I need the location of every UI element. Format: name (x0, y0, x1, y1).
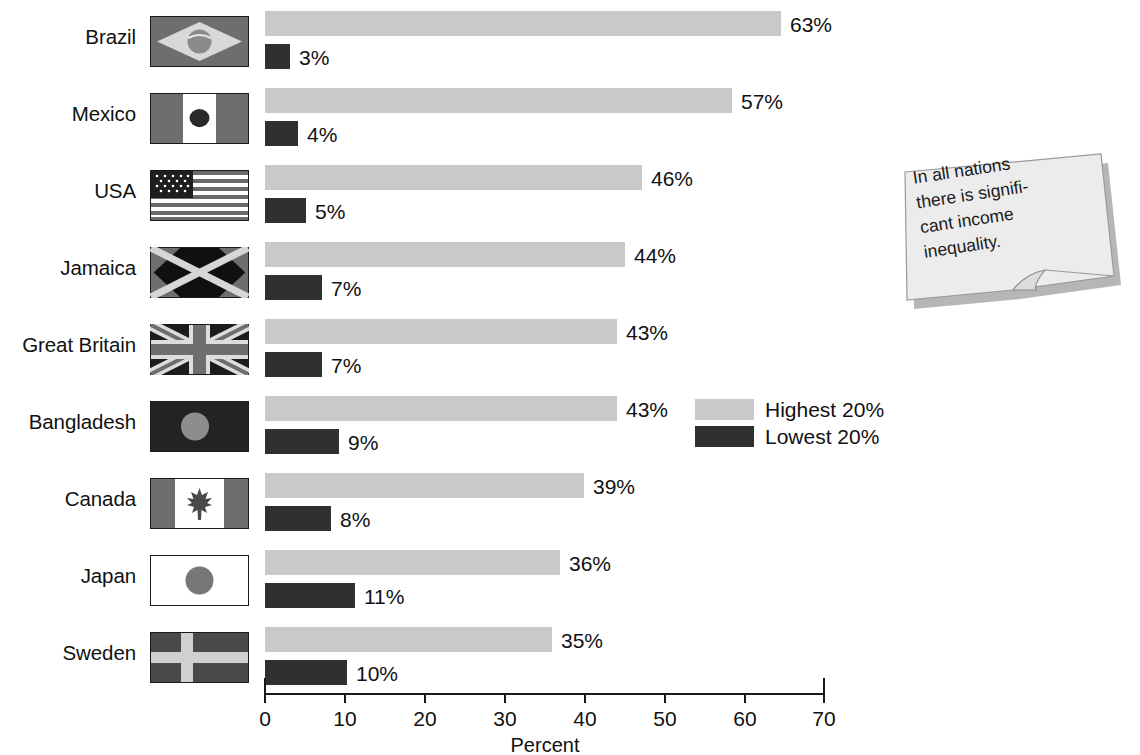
x-axis-tick (584, 693, 586, 703)
bar-value-lowest: 9% (348, 431, 378, 452)
x-axis-tick-label: 50 (635, 706, 695, 731)
chart-row: Japan 36% 11% (0, 543, 1140, 620)
x-axis-tick-label: 10 (315, 706, 375, 731)
flag-jamaica-icon (150, 247, 249, 298)
x-axis-title: Percent (265, 734, 825, 755)
flag-brazil-icon (150, 16, 249, 67)
chart-row: Brazil 63% 3% (0, 4, 1140, 81)
flag-japan-icon (150, 555, 249, 606)
flag-canada-icon (150, 478, 249, 529)
x-axis-line (265, 693, 825, 695)
x-axis-tick (664, 693, 666, 703)
bar-value-lowest: 5% (315, 200, 345, 221)
country-label: Japan (0, 563, 136, 589)
bar-highest: 36% (265, 550, 560, 575)
x-axis-tick (424, 693, 426, 703)
bar-value-lowest: 4% (307, 123, 337, 144)
bar-highest: 57% (265, 88, 732, 113)
x-axis-tick (264, 693, 266, 703)
legend-swatch-highest (695, 399, 754, 420)
bar-value-lowest: 7% (331, 354, 361, 375)
bar-value-highest: 39% (593, 475, 635, 496)
bar-highest: 46% (265, 165, 642, 190)
legend-label-highest: Highest 20% (765, 396, 884, 423)
bar-value-highest: 35% (561, 629, 603, 650)
x-axis-tick-label: 40 (555, 706, 615, 731)
bar-value-highest: 46% (651, 167, 693, 188)
bar-chart: Brazil 63% 3% Mexico 57% 4% USA 46% (0, 0, 1140, 755)
bar-value-lowest: 8% (340, 508, 370, 529)
bar-lowest: 3% (265, 44, 290, 69)
bar-lowest: 4% (265, 121, 298, 146)
country-label: Great Britain (0, 332, 136, 358)
bar-lowest: 8% (265, 506, 331, 531)
country-label: Mexico (0, 101, 136, 127)
bar-lowest: 7% (265, 352, 322, 377)
flag-mexico-icon (150, 93, 249, 144)
bar-lowest: 9% (265, 429, 339, 454)
chart-row: Canada 39% 8% (0, 466, 1140, 543)
x-axis-tick-label: 30 (475, 706, 535, 731)
bar-highest: 35% (265, 627, 552, 652)
bar-value-lowest: 3% (299, 46, 329, 67)
bar-value-lowest: 11% (364, 585, 404, 606)
legend-label-lowest: Lowest 20% (765, 423, 879, 450)
x-axis-tick-label: 0 (235, 706, 295, 731)
country-label: Bangladesh (0, 409, 136, 435)
bar-value-highest: 43% (626, 398, 668, 419)
flag-sweden-icon (150, 632, 249, 683)
bar-highest: 63% (265, 11, 781, 36)
x-axis-tick-label: 60 (715, 706, 775, 731)
country-label: Jamaica (0, 255, 136, 281)
bar-value-highest: 57% (741, 90, 783, 111)
x-axis-tick-label: 20 (395, 706, 455, 731)
flag-usa-icon (150, 170, 249, 221)
x-axis-tick (504, 693, 506, 703)
bar-lowest: 11% (265, 583, 355, 608)
bar-highest: 43% (265, 396, 617, 421)
flag-great-britain-icon (150, 324, 249, 375)
x-axis-tick (344, 693, 346, 703)
chart-row: Mexico 57% 4% (0, 81, 1140, 158)
bar-value-highest: 63% (790, 13, 832, 34)
bar-highest: 39% (265, 473, 584, 498)
country-label: Brazil (0, 24, 136, 50)
chart-row: Sweden 35% 10% (0, 620, 1140, 697)
sticky-note-annotation: In all nations there is signifi- cant in… (893, 148, 1121, 313)
chart-row: Great Britain 43% 7% (0, 312, 1140, 389)
country-label: USA (0, 178, 136, 204)
bar-highest: 44% (265, 242, 625, 267)
bar-value-highest: 44% (634, 244, 676, 265)
bar-value-highest: 43% (626, 321, 668, 342)
bar-lowest: 5% (265, 198, 306, 223)
country-label: Sweden (0, 640, 136, 666)
country-label: Canada (0, 486, 136, 512)
bar-value-highest: 36% (569, 552, 611, 573)
legend-swatch-lowest (695, 426, 754, 447)
bar-value-lowest: 7% (331, 277, 361, 298)
bar-value-lowest: 10% (356, 662, 398, 683)
x-axis-tick (823, 693, 825, 703)
x-axis-tick-label: 70 (794, 706, 854, 731)
bar-lowest: 7% (265, 275, 322, 300)
flag-bangladesh-icon (150, 401, 249, 452)
bar-highest: 43% (265, 319, 617, 344)
chart-row: Bangladesh 43% 9% (0, 389, 1140, 466)
x-axis-tick (744, 693, 746, 703)
bar-lowest: 10% (265, 660, 347, 685)
